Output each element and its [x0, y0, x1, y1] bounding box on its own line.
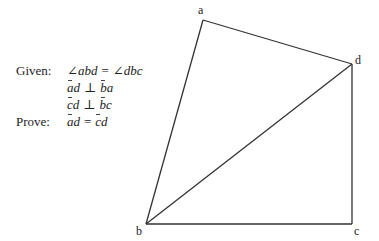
segment-ad — [203, 20, 352, 64]
vertex-label-c: c — [354, 224, 359, 239]
segment-ab — [146, 20, 203, 224]
vertex-label-d: d — [355, 53, 361, 68]
vertex-label-b: b — [136, 224, 142, 239]
quadrilateral-figure — [0, 0, 379, 241]
vertex-label-a: a — [198, 3, 203, 18]
segment-bd — [146, 64, 352, 224]
